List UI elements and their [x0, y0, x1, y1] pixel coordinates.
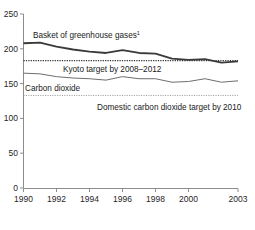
- x-tick-label-2000: 2000: [179, 194, 198, 204]
- y-axis-labels: 250 200 150 100 50 0: [4, 9, 18, 193]
- x-tick-label-1998: 1998: [146, 194, 165, 204]
- label-basket-of-greenhouse-gases: Basket of greenhouse gases1: [33, 30, 140, 40]
- x-tick-label-2003: 2003: [229, 194, 248, 204]
- x-tick-label-1992: 1992: [47, 194, 66, 204]
- chart-container: 250 200 150 100 50 0 1990 1992 1994 1996…: [0, 0, 255, 230]
- y-tick-label-250: 250: [4, 9, 18, 19]
- series-line-basket-of-greenhouse-gases: [24, 43, 239, 63]
- data-series: [24, 43, 239, 83]
- y-tick-label-200: 200: [4, 44, 18, 54]
- x-axis-ticks: [24, 189, 239, 193]
- axes: [24, 14, 239, 189]
- x-tick-label-1990: 1990: [14, 194, 33, 204]
- series-annotations: Basket of greenhouse gases1 Kyoto target…: [25, 30, 242, 112]
- label-carbon-dioxide: Carbon dioxide: [25, 84, 81, 93]
- y-tick-label-50: 50: [9, 148, 19, 158]
- label-basket-text: Basket of greenhouse gases: [33, 31, 137, 40]
- label-basket-superscript: 1: [137, 30, 140, 36]
- y-tick-label-100: 100: [4, 113, 18, 123]
- y-tick-label-150: 150: [4, 79, 18, 89]
- x-tick-label-1996: 1996: [113, 194, 132, 204]
- line-chart: 250 200 150 100 50 0 1990 1992 1994 1996…: [0, 0, 255, 230]
- y-tick-label-0: 0: [13, 183, 18, 193]
- y-axis-ticks: [20, 14, 24, 188]
- x-tick-label-1994: 1994: [80, 194, 99, 204]
- series-line-carbon-dioxide: [24, 73, 239, 82]
- label-domestic-co2-target: Domestic carbon dioxide target by 2010: [97, 103, 242, 112]
- label-kyoto-target: Kyoto target by 2008–2012: [63, 65, 162, 74]
- x-axis-labels: 1990 1992 1994 1996 1998 2000 2003: [14, 194, 248, 204]
